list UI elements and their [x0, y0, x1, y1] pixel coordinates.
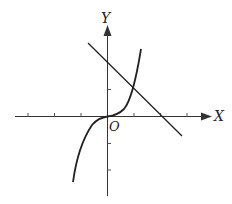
x-axis-label: X	[213, 108, 225, 124]
y-axis-label: Y	[101, 10, 112, 26]
coordinate-plane: Y X O	[0, 0, 232, 204]
graph-canvas: Y X O	[0, 0, 232, 204]
origin-label: O	[109, 119, 120, 134]
y-axis-arrow-icon	[104, 25, 112, 36]
x-axis-arrow-icon	[201, 113, 212, 121]
line-graph	[88, 43, 182, 136]
